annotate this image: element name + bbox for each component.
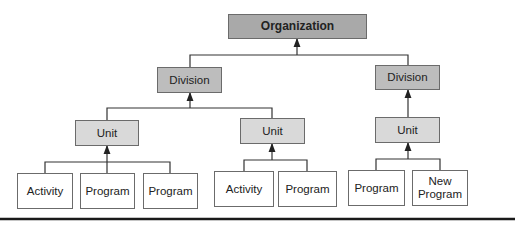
leaf-new-program: New Program bbox=[412, 170, 468, 206]
unit-label: Unit bbox=[397, 124, 417, 137]
unit-label: Unit bbox=[262, 125, 282, 138]
unit-label: Unit bbox=[97, 127, 117, 140]
division-box-left: Division bbox=[157, 67, 222, 93]
leaf-program-1: Program bbox=[80, 173, 135, 209]
leaf-activity-2: Activity bbox=[214, 171, 274, 207]
leaf-label: Activity bbox=[27, 185, 63, 198]
leaf-label: Program bbox=[148, 185, 192, 198]
leaf-program-3: Program bbox=[278, 171, 337, 207]
division-box-right: Division bbox=[375, 65, 440, 90]
unit-box-left: Unit bbox=[75, 120, 139, 146]
leaf-activity-1: Activity bbox=[17, 173, 73, 209]
organization-label: Organization bbox=[261, 20, 334, 33]
leaf-label: Program bbox=[285, 183, 329, 196]
leaf-label: Program bbox=[354, 182, 398, 195]
leaf-program-4: Program bbox=[348, 170, 405, 206]
leaf-program-2: Program bbox=[143, 173, 198, 209]
division-label: Division bbox=[169, 74, 209, 87]
unit-box-right: Unit bbox=[375, 117, 440, 143]
organization-box: Organization bbox=[228, 14, 367, 39]
unit-box-middle: Unit bbox=[240, 118, 305, 144]
leaf-label: Program bbox=[85, 185, 129, 198]
division-label: Division bbox=[387, 71, 427, 84]
leaf-label: Activity bbox=[226, 183, 262, 196]
leaf-label: New Program bbox=[418, 175, 462, 201]
